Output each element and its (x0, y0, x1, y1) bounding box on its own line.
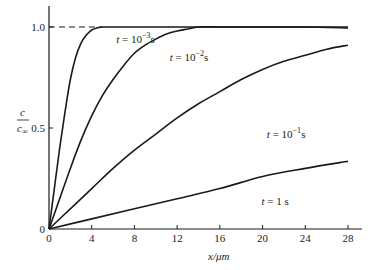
x-tick-label-20: 20 (257, 232, 269, 244)
x-tick-label-8: 8 (132, 232, 138, 244)
concentration-profile-chart: 0481216202428 00.51.0 t = 10−3st = 10−2s… (0, 0, 372, 270)
x-tick-label-0: 0 (46, 232, 52, 244)
curve-label-2: t = 10−2s (170, 49, 209, 63)
x-tick-label-4: 4 (89, 232, 95, 244)
curve-label-3: t = 10−1s (267, 126, 306, 140)
x-axis-label: x/μm (207, 250, 229, 262)
svg-text:c∞: c∞ (17, 122, 28, 136)
curve-labels: t = 10−3st = 10−2st = 10−1st = 1 s (116, 31, 305, 207)
y-axis-label: c c∞ (17, 106, 29, 136)
svg-text:c: c (20, 106, 25, 118)
x-tick-label-28: 28 (343, 232, 355, 244)
curve-label-4: t = 1 s (262, 195, 289, 207)
x-tick-label-16: 16 (214, 232, 226, 244)
x-tick-label-12: 12 (172, 232, 183, 244)
x-ticks: 0481216202428 (46, 225, 354, 244)
x-tick-label-24: 24 (300, 232, 312, 244)
curve-4 (49, 161, 348, 229)
y-tick-label-2: 1.0 (31, 21, 45, 33)
y-tick-label-1: 0.5 (31, 122, 45, 134)
y-ticks: 00.51.0 (31, 21, 53, 235)
y-tick-label-0: 0 (40, 223, 46, 235)
axes (49, 6, 362, 229)
